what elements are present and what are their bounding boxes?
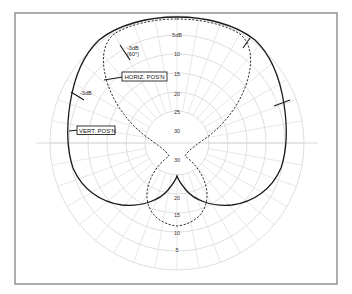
ring-label: 15 (174, 212, 180, 218)
vert-label: VERT. POS'N (79, 128, 116, 134)
horiz-label: HORIZ. POS'N (125, 74, 165, 80)
ring-label: 15 (174, 71, 180, 77)
ring-label: 30 (174, 157, 180, 163)
ring-label: 20 (174, 195, 180, 201)
ring-label: 30 (174, 128, 180, 134)
grid-spoke (155, 18, 171, 112)
minus3db-upper-angle: (60°) (127, 51, 139, 57)
ring-label: 25 (174, 109, 180, 115)
ring-label: 10 (174, 230, 180, 236)
ring-label: 10 (174, 51, 180, 57)
minus3db-left-annotation: -3dB (80, 90, 92, 96)
polar-diagram: 5dB1015202530302015105 -3dB (60°) -3dB H… (0, 0, 352, 294)
ring-label: 20 (174, 91, 180, 97)
grid-spoke (52, 149, 146, 165)
ring-label: 5 (175, 247, 178, 253)
ring-label: 5dB (172, 32, 182, 38)
grid-spoke (209, 149, 303, 165)
horiz-label-leader (104, 77, 123, 80)
grid-spoke (183, 18, 199, 112)
